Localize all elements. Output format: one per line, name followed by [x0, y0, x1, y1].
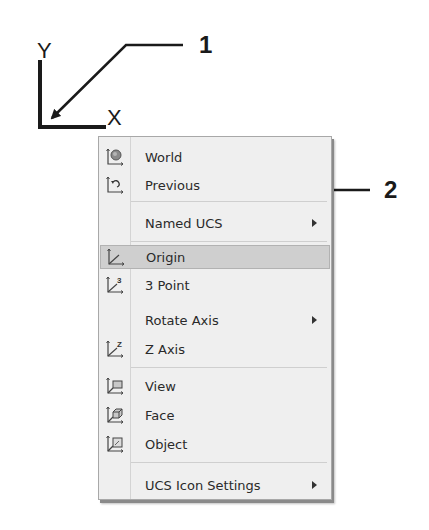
menu-item-world[interactable]: World	[100, 145, 330, 169]
ucs-x-label: X	[107, 105, 122, 131]
menu-item-label: View	[145, 379, 176, 394]
menu-item-label: Origin	[146, 250, 185, 265]
menu-item-label: Object	[145, 437, 187, 452]
menu-item-label: Previous	[145, 178, 200, 193]
menu-item-face[interactable]: Face	[100, 403, 330, 427]
menu-item-previous[interactable]: Previous	[100, 173, 330, 197]
ucs-context-menu: World Previous Named UCS Orig	[98, 136, 332, 500]
callout-1-number: 1	[199, 31, 212, 59]
menu-item-label: 3 Point	[145, 278, 190, 293]
svg-text:3: 3	[117, 276, 122, 285]
menu-item-label: Z Axis	[145, 342, 185, 357]
menu-item-label: UCS Icon Settings	[145, 478, 261, 493]
menu-item-ucs-icon-settings[interactable]: UCS Icon Settings	[100, 473, 330, 497]
callout-2-number: 2	[384, 176, 397, 204]
menu-item-view[interactable]: View	[100, 374, 330, 398]
ucs-previous-icon	[100, 173, 130, 197]
submenu-arrow-icon	[312, 219, 317, 227]
menu-item-label: World	[145, 150, 182, 165]
submenu-arrow-icon	[312, 316, 317, 324]
menu-separator	[131, 462, 327, 463]
ucs-face-icon	[100, 403, 130, 427]
submenu-arrow-icon	[312, 481, 317, 489]
ucs-y-label: Y	[37, 38, 52, 64]
menu-item-3-point[interactable]: 3 3 Point	[100, 273, 330, 297]
menu-item-object[interactable]: Object	[100, 432, 330, 456]
menu-item-rotate-axis[interactable]: Rotate Axis	[100, 308, 330, 332]
menu-separator	[131, 367, 327, 368]
ucs-zaxis-icon: Z	[100, 337, 130, 361]
menu-item-label: Face	[145, 408, 174, 423]
ucs-view-icon	[100, 374, 130, 398]
ucs-world-icon	[100, 145, 130, 169]
ucs-origin-icon	[101, 245, 131, 269]
menu-separator	[131, 201, 327, 202]
ucs-3point-icon: 3	[100, 273, 130, 297]
menu-item-label: Named UCS	[145, 216, 223, 231]
menu-item-origin[interactable]: Origin	[100, 245, 330, 269]
ucs-axes-icon	[38, 60, 106, 129]
menu-item-named-ucs[interactable]: Named UCS	[100, 211, 330, 235]
menu-item-label: Rotate Axis	[145, 313, 219, 328]
svg-text:Z: Z	[117, 340, 122, 349]
menu-separator	[131, 241, 327, 242]
ucs-object-icon	[100, 432, 130, 456]
menu-item-z-axis[interactable]: Z Z Axis	[100, 337, 330, 361]
